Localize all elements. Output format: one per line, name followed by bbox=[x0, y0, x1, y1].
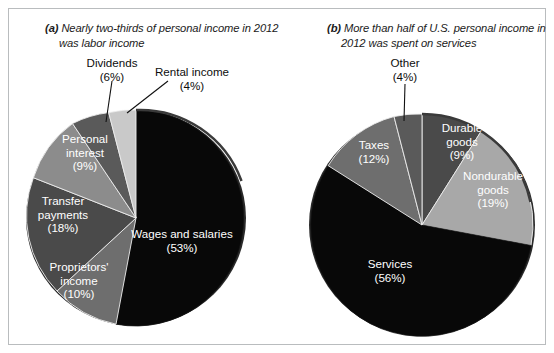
panel-b: (b) More than half of U.S. personal inco… bbox=[287, 9, 547, 344]
label-nondurable-goods-pct: (19%) bbox=[443, 196, 543, 210]
label-transfer-payments-name-2: payments bbox=[17, 208, 109, 222]
label-durable-goods: Durable goods (9%) bbox=[424, 121, 500, 162]
label-transfer-payments: Transfer payments (18%) bbox=[17, 194, 109, 235]
label-personal-interest-name-1: Personal bbox=[45, 132, 125, 146]
label-other-pct: (4%) bbox=[367, 70, 443, 84]
label-other-name: Other bbox=[367, 56, 443, 70]
figure-frame: (a) Nearly two-thirds of personal income… bbox=[8, 8, 546, 345]
label-personal-interest-name-2: interest bbox=[45, 146, 125, 160]
label-taxes-name: Taxes bbox=[342, 138, 406, 152]
label-nondurable-goods-name-2: goods bbox=[443, 183, 543, 197]
label-services-pct: (56%) bbox=[345, 271, 435, 285]
label-durable-goods-name-1: Durable bbox=[424, 121, 500, 135]
label-rental-income-name: Rental income bbox=[137, 65, 247, 79]
label-nondurable-goods: Nondurable goods (19%) bbox=[443, 169, 543, 210]
label-wages-and-salaries-pct: (53%) bbox=[117, 241, 247, 255]
label-wages-and-salaries-name: Wages and salaries bbox=[117, 227, 247, 241]
label-proprietors-income-pct: (10%) bbox=[33, 287, 125, 301]
label-proprietors-income-name-2: income bbox=[33, 274, 125, 288]
label-proprietors-income-name-1: Proprietors' bbox=[33, 260, 125, 274]
label-nondurable-goods-name-1: Nondurable bbox=[443, 169, 543, 183]
label-taxes-pct: (12%) bbox=[342, 152, 406, 166]
label-durable-goods-name-2: goods bbox=[424, 135, 500, 149]
label-wages-and-salaries: Wages and salaries (53%) bbox=[117, 227, 247, 254]
label-rental-income-pct: (4%) bbox=[137, 79, 247, 93]
label-personal-interest-pct: (9%) bbox=[45, 159, 125, 173]
panel-a: (a) Nearly two-thirds of personal income… bbox=[9, 9, 287, 344]
label-taxes: Taxes (12%) bbox=[342, 138, 406, 165]
label-durable-goods-pct: (9%) bbox=[424, 148, 500, 162]
label-services: Services (56%) bbox=[345, 257, 435, 284]
label-proprietors-income: Proprietors' income (10%) bbox=[33, 260, 125, 301]
label-rental-income: Rental income (4%) bbox=[137, 65, 247, 92]
label-services-name: Services bbox=[345, 257, 435, 271]
label-transfer-payments-pct: (18%) bbox=[17, 221, 109, 235]
label-personal-interest: Personal interest (9%) bbox=[45, 132, 125, 173]
label-other: Other (4%) bbox=[367, 56, 443, 83]
label-transfer-payments-name-1: Transfer bbox=[17, 194, 109, 208]
